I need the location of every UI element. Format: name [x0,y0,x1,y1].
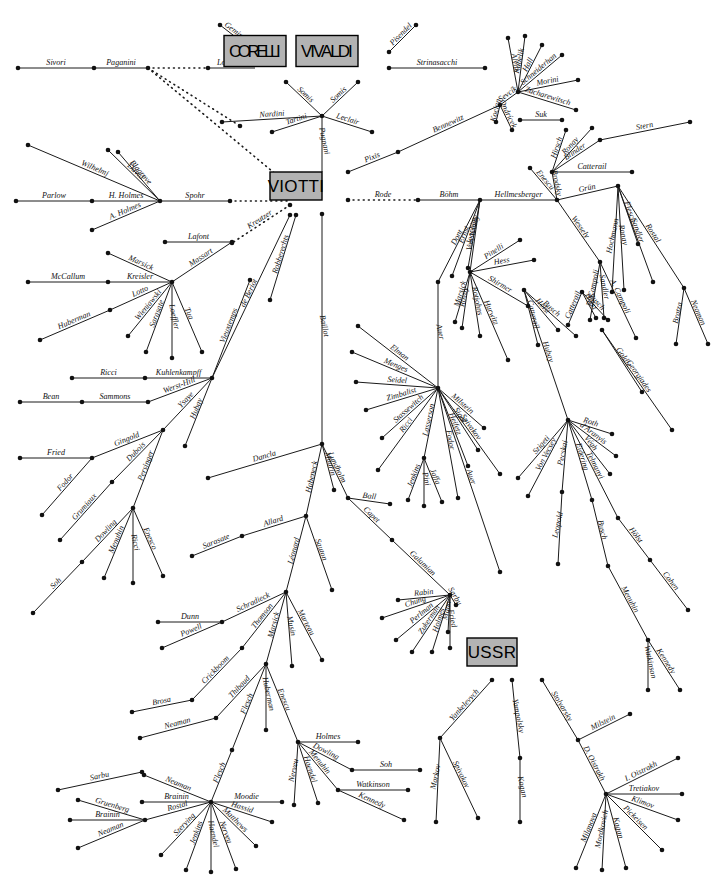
lineage-node [18,400,23,405]
lineage-node [210,376,215,381]
edge-label: Milstein [588,712,617,732]
lineage-node [206,66,211,71]
lineage-node [106,280,111,285]
lineage-node [320,114,325,119]
lineage-node [448,646,453,651]
lineage-node [624,866,629,871]
edge-label: Loeffler [167,302,182,331]
lineage-node [706,342,711,347]
edge-label: Sarbu [89,770,110,783]
edge-label: Nardini [258,109,284,120]
lineage-node [518,756,523,761]
lineage-node [288,213,293,218]
lineage-node [536,343,541,348]
lineage-node [76,846,81,851]
lineage-node [518,238,523,243]
edge-label: Catterail [577,162,607,171]
lineage-node [498,570,503,575]
lineage-node [102,576,107,581]
lineage-node [380,436,385,441]
lineage-node [682,286,687,291]
edge-label: Busch [596,519,609,540]
lineage-node [506,36,511,41]
lineage-tree-svg: SivoriPaganiniLocatelliGeminianiStrinasa… [0,0,720,884]
edge-label: Hölst [626,524,645,545]
lineage-node [598,138,603,143]
lineage-node [453,320,458,325]
lineage-node [516,476,521,481]
edge-label: Powell [178,621,204,639]
edge-label: Robberechts [270,234,291,276]
lineage-node [26,280,31,285]
lineage-node [460,326,465,331]
lineage-node [346,198,351,203]
lineage-node [387,50,392,55]
lineage-node [140,770,145,775]
lineage-node [140,800,145,805]
lineage-node [108,308,113,313]
lineage-node [336,788,341,793]
lineage-node [320,658,325,663]
edge-label: Enesco [141,525,159,551]
edge-label: Kagan [611,815,626,839]
lineage-node [346,170,351,175]
edge-label: Watkinson [356,780,389,789]
edge-label: Auer [434,322,446,341]
lineage-node [594,316,599,321]
root-node-viotti[interactable]: VIOTTI [268,172,325,200]
lineage-node [80,560,85,565]
lineage-node [555,198,560,203]
lineage-node [574,866,579,871]
edge-label: Böhm [440,190,459,199]
lineage-node [630,170,635,175]
lineage-node [576,738,581,743]
lineage-node [18,456,23,461]
lineage-node [130,710,135,715]
lineage-node [294,213,299,218]
lineage-node [106,251,111,256]
edge-label: Neaman [95,820,124,839]
lineage-node [131,581,136,586]
edge-label: McCallum [50,272,85,281]
edge-label: Markov [428,763,442,791]
lineage-node [606,564,611,569]
lineage-node [406,788,411,793]
root-node-vivaldi[interactable]: VIVALDI [296,36,358,67]
lineage-node [206,476,211,481]
lineage-node [483,66,488,71]
edge-label: Galamian [408,549,438,578]
edge-label: Baillot [318,314,332,338]
lineage-node [230,748,235,753]
edge-label: Fodor [54,471,75,494]
lineage-node [476,816,481,821]
lineage-node [604,792,609,797]
edge-label: Rotjohns [470,285,485,316]
lineage-node [394,638,399,643]
edge-label: Kreutzer [245,207,275,231]
lineage-node [680,792,685,797]
lineage-node [468,270,473,275]
root-node-corelli[interactable]: CORELLI [224,36,286,67]
lineage-edge [398,105,500,152]
lineage-node [163,240,168,245]
edge-label: Lafont [187,232,210,241]
lineage-node [614,454,619,459]
root-node-ussr[interactable]: USSR [467,638,517,666]
lineage-node [268,298,273,303]
lineage-node [270,820,275,825]
edge-label: Cohen [661,570,681,592]
lineage-node [126,334,131,339]
lineage-node [138,736,143,741]
lineage-node [518,820,523,825]
lineage-node [634,336,639,341]
edge-label: Yampolsky [510,698,526,734]
edge-label: Bean [43,392,60,401]
lineage-node [284,80,289,85]
lineage-node [270,130,275,135]
edge-label: Neaman [688,297,707,326]
lineage-node [540,678,545,683]
lineage-edge [208,444,322,478]
lineage-node [116,150,121,155]
edge-label: Hubay [540,339,556,364]
lineage-node [528,166,533,171]
